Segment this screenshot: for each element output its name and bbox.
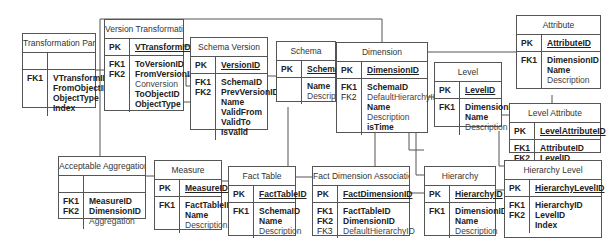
key-column: FK1 [23, 70, 48, 116]
key-label: PK [195, 60, 215, 70]
field-name: FromVersionID [135, 69, 195, 79]
key-label: PK [109, 42, 129, 52]
field-name: ToVersionID [135, 59, 195, 69]
key-label: PK [429, 189, 449, 199]
field-name: Description [455, 226, 507, 236]
attributes-section: FK1SchemaIDNameDescription [229, 203, 295, 238]
primary-key-section: PKVTransformID [105, 39, 183, 56]
key-label: FK1 [63, 196, 83, 206]
primary-key-section: PKFactTableID [229, 186, 295, 203]
primary-key-section: PKSchemaID [277, 61, 335, 78]
field-column: SchemaIDPrevVersionIDNameValidFromValidT… [216, 74, 279, 140]
field-name: AttributeID [540, 143, 584, 153]
key-label: PK [281, 64, 301, 74]
entity-title: Fact Dimension Association [313, 167, 409, 186]
field-name: HierarchyLevelID [535, 183, 604, 193]
primary-key-section: PKVersionID [191, 57, 267, 74]
entity-title: Level [435, 63, 501, 82]
key-label [109, 89, 129, 99]
key-label: FK2 [109, 69, 129, 79]
key-label [27, 56, 47, 66]
field-name: LevelAttributeID [540, 126, 606, 136]
attributes-section: FK1DimensionIDNameDescription [517, 52, 600, 88]
key-label: FK1 [429, 206, 449, 216]
field-name: Aggregation [89, 216, 141, 226]
primary-key-section: PKAttributeID [517, 35, 600, 52]
field-column: HierarchyLevelID [530, 180, 604, 196]
entity-title: Hierarchy Level [505, 161, 601, 180]
attributes-section: FK1FK2SchemaIDPrevVersionIDNameValidFrom… [191, 74, 267, 140]
entity-title: Transformation Part [23, 34, 95, 53]
key-label: FK1 [195, 77, 215, 87]
key-label: FK2 [341, 92, 361, 102]
key-column: PK [505, 180, 530, 196]
field-name: Description [367, 112, 439, 122]
attributes-section: FK1VTransformIDFromObjectIDObjectTypeInd… [23, 70, 95, 116]
key-label [429, 216, 449, 226]
field-name: VersionID [221, 60, 260, 70]
key-column: PK [313, 186, 338, 202]
key-label: PK [233, 189, 253, 199]
field-column: MeasureID [180, 180, 228, 196]
key-label [341, 112, 361, 122]
entity-title: Attribute [517, 16, 600, 35]
key-column: FK1FK2 [505, 197, 530, 233]
entity-level-attribute: Level AttributePKLevelAttributeIDFK1FK2A… [509, 103, 601, 153]
key-label [439, 122, 459, 132]
key-column: FK1 [229, 203, 254, 238]
primary-key-section [59, 176, 145, 193]
field-name: IsValid [221, 127, 279, 137]
field-name: DefaultHierarchyID [343, 226, 415, 236]
field-name: DimensionID [89, 206, 141, 216]
primary-key-section: PKMeasureID [155, 180, 221, 197]
attributes-section: FK1FK2HierarchyIDLevelIDIndex [505, 197, 601, 233]
key-label: FK1 [27, 73, 47, 83]
key-column: FK1 [517, 52, 542, 88]
key-label: FK1 [521, 55, 541, 65]
field-name: DefaultHierarchyID [367, 92, 439, 102]
entity-title: Schema [277, 42, 335, 61]
key-label [521, 65, 541, 75]
field-column [48, 53, 53, 69]
key-label: FK1 [317, 206, 337, 216]
field-column: VTransformIDFromObjectIDObjectTypeIndex [48, 70, 109, 116]
entity-attribute: AttributePKAttributeIDFK1DimensionIDName… [516, 15, 601, 89]
attributes-section: FK1FactTableIDNameDescription [155, 197, 221, 233]
field-name: Name [367, 102, 439, 112]
key-column: FK1 [425, 203, 450, 238]
key-label [233, 216, 253, 226]
key-label [63, 179, 83, 189]
field-name: FactTableID [259, 189, 307, 199]
field-column: HierarchyIDLevelIDIndex [530, 197, 583, 233]
entity-title: Fact Table [229, 167, 295, 186]
key-label: FK2 [509, 210, 529, 220]
key-label: FK2 [63, 206, 83, 216]
key-column: FK1 [435, 99, 460, 135]
key-column: PK [191, 57, 216, 73]
field-name: Name [547, 65, 599, 75]
field-name: DimensionID [547, 55, 599, 65]
key-label: PK [159, 183, 179, 193]
key-label: PK [439, 85, 459, 95]
primary-key-section: PKFactDimensionID [313, 186, 409, 203]
key-label [281, 91, 301, 101]
entity-level: LevelPKLevelIDFK1DimensionIDNameDescript… [434, 62, 502, 127]
key-label [195, 107, 215, 117]
field-name: Name [455, 216, 507, 226]
key-column: PK [105, 39, 130, 55]
key-label [159, 220, 179, 230]
key-column: FK1FK2 [191, 74, 216, 140]
primary-key-section: PKLevelID [435, 82, 501, 99]
key-label [159, 210, 179, 220]
entity-title: Dimension [337, 43, 427, 62]
entity-dimension: DimensionPKDimensionIDFK1FK2SchemaIDDefa… [336, 42, 428, 133]
field-name: HierarchyID [535, 200, 583, 210]
field-column: FactTableIDDimensionIDDefaultHierarchyID [338, 203, 415, 238]
entity-schema-version: Schema VersionPKVersionIDFK1FK2SchemaIDP… [190, 37, 268, 130]
key-column: FK1FK2 [59, 193, 84, 229]
attributes-section: FK1DimensionIDNameDescription [435, 99, 501, 135]
attributes-section: FK1DimensionIDNameDescription [425, 203, 495, 238]
field-name: isTime [367, 122, 439, 132]
field-name: FactDimensionID [343, 189, 412, 199]
field-column: LevelAttributeID [535, 123, 606, 139]
